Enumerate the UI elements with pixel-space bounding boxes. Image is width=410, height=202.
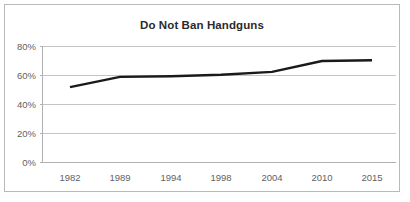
- x-tick-label-0: 1982: [59, 172, 80, 183]
- y-tick-label-20: 20%: [17, 128, 37, 139]
- x-tick-label-3: 1998: [210, 172, 231, 183]
- x-tick-label-5: 2010: [311, 172, 332, 183]
- y-tick-label-80: 80%: [17, 41, 37, 52]
- y-tick-label-60: 60%: [17, 70, 37, 81]
- x-tick-label-1: 1989: [109, 172, 130, 183]
- gridlines-group: [43, 47, 396, 163]
- data-series-line: [70, 60, 372, 87]
- y-tick-label-40: 40%: [17, 99, 37, 110]
- line-chart-plot: 80% 60% 40% 20% 0% 1982 1989 1994 1998 2…: [0, 0, 410, 202]
- x-axis-tick-labels: 1982 1989 1994 1998 2004 2010 2015: [59, 172, 382, 183]
- x-tick-label-4: 2004: [261, 172, 282, 183]
- x-tick-label-6: 2015: [361, 172, 382, 183]
- y-tick-label-0: 0%: [22, 157, 36, 168]
- y-axis-tick-labels: 80% 60% 40% 20% 0%: [17, 41, 37, 168]
- x-tick-label-2: 1994: [160, 172, 181, 183]
